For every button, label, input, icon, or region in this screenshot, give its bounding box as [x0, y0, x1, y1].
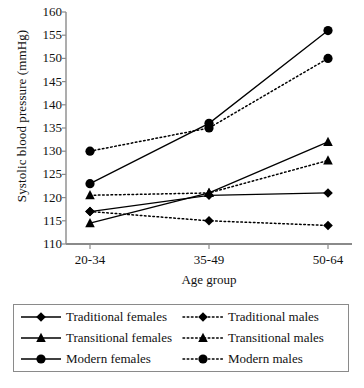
x-tick-35-49: 35-49 — [164, 252, 254, 268]
series-transitional-males — [85, 155, 333, 199]
series-traditional-males — [85, 207, 333, 231]
legend-label: Modern females — [66, 353, 151, 365]
legend-item-transitional-males[interactable]: Transitional males — [182, 332, 344, 344]
legend-marker — [36, 354, 45, 363]
y-tick-120: 120 — [28, 193, 62, 203]
legend-item-traditional-males[interactable]: Traditional males — [182, 311, 344, 323]
x-tick-50-64: 50-64 — [283, 252, 364, 268]
legend-label: Modern males — [228, 353, 303, 365]
chart-figure: Systolic blood pressure (mmHg) 110115120… — [0, 0, 364, 388]
chart-legend: Traditional femalesTraditional malesTran… — [13, 304, 349, 372]
legend-sample-circle-solid — [20, 353, 62, 365]
legend-label: Transitional females — [66, 332, 172, 344]
legend-item-traditional-females[interactable]: Traditional females — [20, 311, 182, 323]
plot-region — [66, 12, 352, 244]
y-tick-140: 140 — [28, 100, 62, 110]
data-point — [204, 216, 214, 226]
series-line — [90, 31, 328, 184]
data-point — [323, 155, 333, 164]
y-tick-130: 130 — [28, 146, 62, 156]
data-point — [323, 54, 332, 63]
data-point — [323, 188, 333, 198]
data-point — [323, 221, 333, 231]
legend-sample-diamond-dotted — [182, 311, 224, 323]
series-modern-males — [85, 54, 332, 156]
legend-sample-circle-dotted — [182, 353, 224, 365]
legend-label: Transitional males — [228, 332, 324, 344]
data-point — [85, 207, 95, 217]
data-point — [85, 190, 95, 199]
y-tick-135: 135 — [28, 123, 62, 133]
data-point — [85, 179, 94, 188]
legend-sample-triangle-solid — [20, 332, 62, 344]
legend-marker — [36, 313, 46, 323]
y-tick-155: 155 — [28, 30, 62, 40]
data-point — [323, 26, 332, 35]
y-tick-145: 145 — [28, 77, 62, 87]
legend-marker — [198, 354, 207, 363]
legend-label: Traditional females — [66, 311, 167, 323]
series-modern-females — [85, 26, 332, 188]
legend-label: Traditional males — [228, 311, 319, 323]
y-tick-110: 110 — [28, 239, 62, 249]
series-transitional-females — [85, 137, 333, 227]
y-tick-150: 150 — [28, 53, 62, 63]
x-tick-20-34: 20-34 — [45, 252, 135, 268]
series-line — [90, 142, 328, 223]
data-point — [85, 147, 94, 156]
y-axis-tick-labels: 110115120125130135140145150155160 — [24, 12, 62, 244]
series-line — [90, 58, 328, 151]
data-point — [204, 123, 213, 132]
chart-area: Systolic blood pressure (mmHg) 110115120… — [0, 0, 364, 296]
legend-item-transitional-females[interactable]: Transitional females — [20, 332, 182, 344]
data-point — [323, 137, 333, 146]
legend-sample-triangle-dotted — [182, 332, 224, 344]
x-axis-tick-labels: 20-3435-4950-64 — [66, 252, 352, 270]
legend-item-modern-females[interactable]: Modern females — [20, 353, 182, 365]
y-tick-115: 115 — [28, 216, 62, 226]
x-axis-title: Age group — [66, 272, 352, 288]
y-tick-160: 160 — [28, 7, 62, 17]
plot-svg — [66, 12, 352, 244]
legend-marker — [198, 313, 208, 323]
legend-item-modern-males[interactable]: Modern males — [182, 353, 344, 365]
legend-sample-diamond-solid — [20, 311, 62, 323]
y-tick-125: 125 — [28, 169, 62, 179]
